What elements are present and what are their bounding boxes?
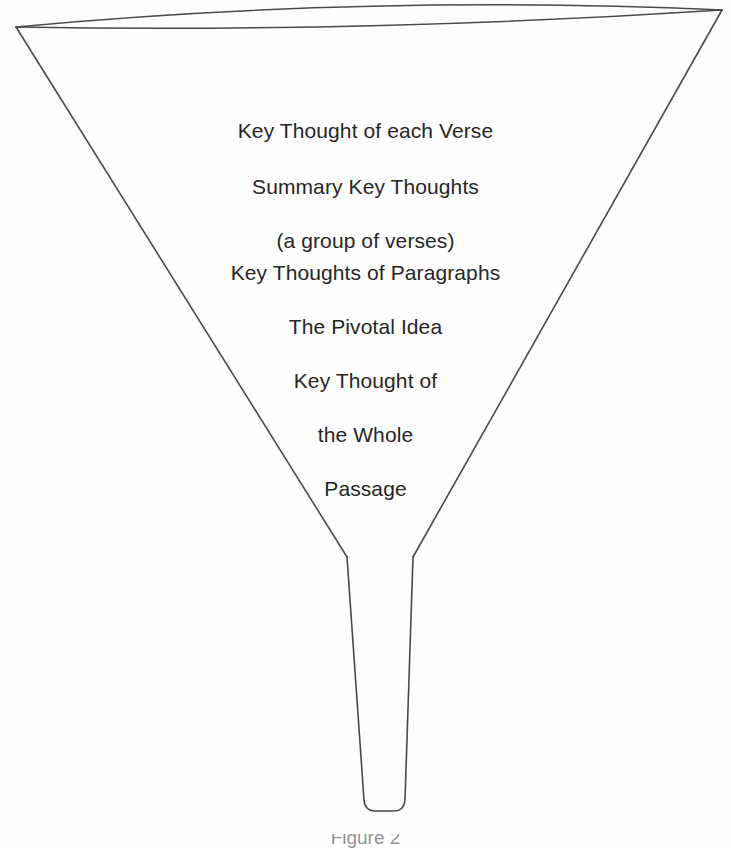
funnel-illustration bbox=[0, 0, 731, 848]
funnel-stem-outline bbox=[347, 557, 413, 811]
funnel-rim-front-arc bbox=[16, 10, 722, 28]
funnel-cone-left-wall bbox=[16, 27, 347, 557]
figure-caption-text: Figure 2 bbox=[0, 834, 731, 848]
funnel-diagram-figure: Key Thought of each Verse Summary Key Th… bbox=[0, 0, 731, 848]
funnel-cone-right-wall bbox=[413, 10, 722, 557]
figure-caption-clipped: Figure 2 bbox=[0, 834, 731, 848]
